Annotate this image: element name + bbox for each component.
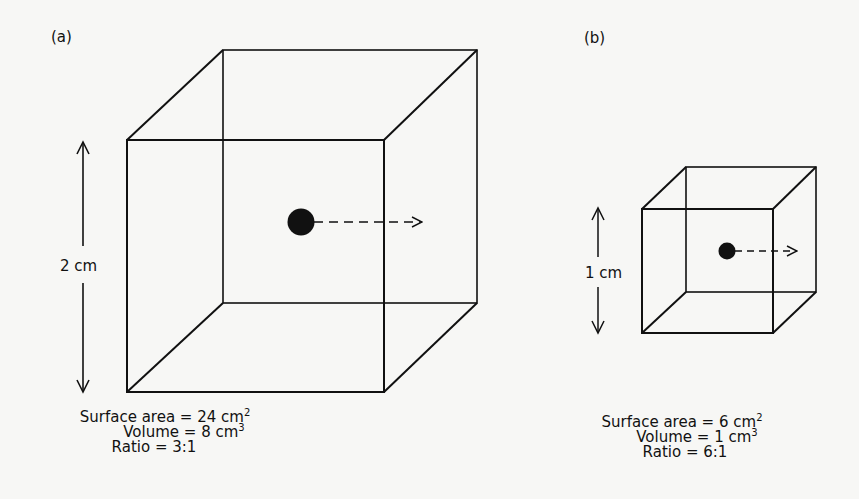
- particle-dot-b: [719, 243, 736, 260]
- panel-label-b: (b): [584, 29, 605, 47]
- ratio-a: Ratio = 3:1: [50, 440, 280, 455]
- dimension-label-a: 2 cm: [60, 257, 97, 275]
- cube-a-front-face: [127, 140, 384, 392]
- dimension-label-b: 1 cm: [585, 264, 622, 282]
- particle-dot-a: [288, 209, 315, 236]
- ratio-b: Ratio = 6:1: [582, 445, 782, 460]
- stats-block-b: Surface area = 6 cm2 Volume = 1 cm3 Rati…: [582, 415, 782, 460]
- panel-label-a: (a): [51, 28, 72, 46]
- stats-block-a: Surface area = 24 cm2 Volume = 8 cm3 Rat…: [50, 410, 280, 455]
